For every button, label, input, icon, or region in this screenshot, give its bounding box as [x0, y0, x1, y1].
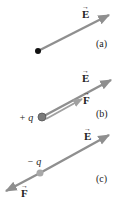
vector-arrow-mark: →: [21, 182, 28, 190]
negative-charge: [37, 170, 44, 177]
point-dot: [35, 48, 41, 54]
panel-label-b: (b): [96, 108, 108, 120]
vector-arrow-mark: →: [83, 89, 90, 97]
force-arrow-f: [46, 99, 82, 119]
positive-charge: [38, 113, 46, 121]
field-arrow-e: [40, 135, 109, 173]
panel-c: E → F → − q (c): [6, 125, 109, 199]
panel-b: E → F → + q (b): [19, 67, 111, 123]
electric-field-force-diagram: E → (a) E → F → + q (b) E → F → − q (c): [0, 0, 127, 200]
panel-a: E → (a): [35, 3, 109, 54]
vector-arrow-mark: →: [82, 3, 89, 11]
charge-label-positive: + q: [19, 112, 33, 123]
charge-label-negative: − q: [27, 156, 41, 167]
panel-label-a: (a): [96, 38, 107, 50]
panel-label-c: (c): [96, 173, 107, 185]
vector-arrow-mark: →: [84, 125, 91, 133]
vector-arrow-mark: →: [82, 67, 89, 75]
